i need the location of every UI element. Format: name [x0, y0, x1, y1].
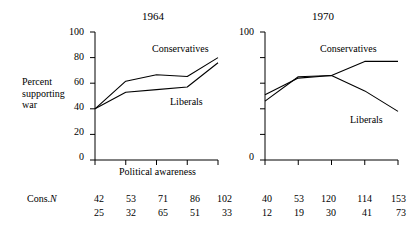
table-row-label-cons-n: Cons.N: [27, 193, 57, 204]
table-cell-cons-1964-3: 71: [144, 193, 168, 204]
table-cell-cons-1970-4: 114: [344, 193, 372, 204]
table-cell-libs-1964-1: 25: [80, 207, 104, 218]
table-cell-cons-1964-1: 42: [80, 193, 104, 204]
table-cell-cons-1964-4: 86: [176, 193, 200, 204]
line-liberals-1964: [95, 63, 218, 109]
table-cell-libs-1970-1: 12: [248, 207, 272, 218]
line-conservatives-1964: [95, 58, 218, 109]
panel-1964-axes: [90, 32, 218, 165]
table-cell-cons-1970-1: 40: [248, 193, 272, 204]
table-cell-cons-1970-2: 53: [280, 193, 304, 204]
table-cell-libs-1970-2: 19: [280, 207, 304, 218]
table-cell-cons-1970-5: 153: [378, 193, 406, 204]
table-cell-cons-1970-3: 120: [308, 193, 336, 204]
table-cell-libs-1970-3: 30: [308, 207, 336, 218]
table-cell-libs-1964-4: 51: [176, 207, 200, 218]
table-row-label-symbol: N: [50, 193, 57, 204]
figure-container: 1964 1970 Percent supporting war 100 80 …: [0, 0, 416, 230]
table-cell-libs-1970-5: 73: [378, 207, 406, 218]
table-cell-libs-1964-3: 65: [144, 207, 168, 218]
table-cell-cons-1964-2: 53: [112, 193, 136, 204]
table-cell-libs-1970-4: 41: [344, 207, 372, 218]
table-row-label-prefix: Cons.: [27, 193, 50, 204]
line-liberals-1970: [265, 76, 398, 112]
table-cell-libs-1964-2: 32: [112, 207, 136, 218]
line-conservatives-1970: [265, 61, 398, 94]
table-cell-cons-1964-5: 102: [204, 193, 232, 204]
table-cell-libs-1964-5: 33: [204, 207, 232, 218]
